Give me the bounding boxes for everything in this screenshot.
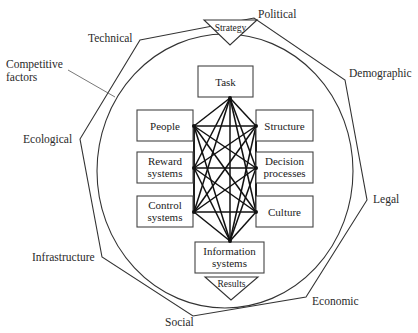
interconnections <box>194 98 256 241</box>
node-culture-label: Culture <box>268 206 301 218</box>
organization-diagram: Strategy Results Task People Structure R… <box>0 0 418 333</box>
results-label: Results <box>218 279 246 289</box>
node-reward-label-1: Reward <box>148 155 183 167</box>
node-decision-label-1: Decision <box>265 155 305 167</box>
node-culture: Culture <box>256 196 313 227</box>
label-demographic: Demographic <box>349 67 412 80</box>
label-ecological: Ecological <box>23 133 72 146</box>
node-reward-systems: Reward systems <box>137 152 193 183</box>
node-structure-label: Structure <box>264 120 304 132</box>
label-competitive-factors-1: Competitive <box>6 58 63 71</box>
label-economic: Economic <box>312 295 359 307</box>
node-information-label-1: Information <box>203 245 256 257</box>
label-infrastructure: Infrastructure <box>32 251 95 263</box>
results-triangle: Results <box>205 277 258 300</box>
competitive-factors-pointer <box>68 70 115 97</box>
label-social: Social <box>165 316 194 328</box>
node-task-label: Task <box>215 76 236 88</box>
label-legal: Legal <box>373 193 399 206</box>
node-information-label-2: systems <box>212 257 247 269</box>
node-structure: Structure <box>256 110 313 141</box>
node-control-label-1: Control <box>148 199 182 211</box>
node-people-label: People <box>150 120 180 132</box>
label-technical: Technical <box>88 32 133 44</box>
node-decision-label-2: processes <box>263 167 305 179</box>
node-task: Task <box>198 66 253 97</box>
node-control-label-2: systems <box>148 211 183 223</box>
node-information-systems: Information systems <box>195 242 264 273</box>
strategy-label: Strategy <box>215 23 247 33</box>
label-political: Political <box>258 8 296 20</box>
node-reward-label-2: systems <box>148 167 183 179</box>
label-competitive-factors-2: factors <box>6 71 38 83</box>
node-people: People <box>137 110 193 141</box>
strategy-triangle: Strategy <box>204 20 257 45</box>
node-control-systems: Control systems <box>137 196 193 227</box>
node-decision-processes: Decision processes <box>256 152 313 183</box>
